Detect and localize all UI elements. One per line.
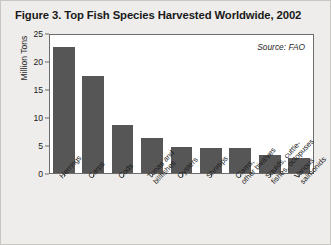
bar xyxy=(53,47,75,173)
page-title: Figure 3. Top Fish Species Harvested Wor… xyxy=(15,9,301,21)
y-axis-tick-label: 10 xyxy=(33,113,43,123)
y-axis: 0510152025 xyxy=(1,34,49,174)
figure-container: Figure 3. Top Fish Species Harvested Wor… xyxy=(0,0,331,245)
y-axis-tick-label: 25 xyxy=(33,29,43,39)
y-axis-tick-label: 15 xyxy=(33,85,43,95)
bar xyxy=(82,76,104,173)
y-axis-tick-label: 5 xyxy=(38,141,43,151)
y-axis-tick-label: 20 xyxy=(33,57,43,67)
x-axis-labels: HerringsCarpsCodsTunas and billfishesOys… xyxy=(49,175,331,245)
y-axis-tick-label: 0 xyxy=(38,169,43,179)
